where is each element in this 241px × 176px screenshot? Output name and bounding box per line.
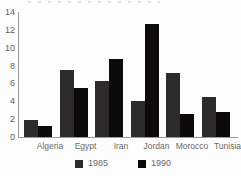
bar-1990-iran [109,59,123,137]
x-category-label: Egypt [75,141,97,151]
y-axis-line [18,12,19,138]
cropped-title-remnant [28,1,160,3]
y-tick-label: 14 [1,8,15,17]
bar-1990-egypt [74,88,88,137]
x-category-label: Jordan [144,141,170,151]
legend-item-1990: 1990 [138,159,171,168]
bar-1985-tunisia [202,97,216,137]
chart-screenshot: 02468101214AlgeriaEgyptIranJordanMorocco… [0,0,241,176]
bar-1985-iran [95,81,109,137]
x-category-label: Tunisia [214,141,241,151]
bar-1985-egypt [60,70,74,137]
y-tick-label: 0 [1,133,15,142]
y-tick-label: 4 [1,97,15,106]
x-axis-line [18,137,238,138]
bar-1990-algeria [38,126,52,137]
x-category-label: Algeria [37,141,63,151]
y-tick-label: 8 [1,62,15,71]
bar-1985-jordan [131,101,145,137]
y-tick-label: 2 [1,115,15,124]
legend-swatch-1985 [75,160,83,168]
y-tick-label: 10 [1,44,15,53]
legend-swatch-1990 [138,160,146,168]
legend-item-1985: 1985 [75,159,108,168]
bar-1985-algeria [24,120,38,137]
y-tick-label: 12 [1,26,15,35]
x-category-label: Morocco [176,141,209,151]
bar-1990-jordan [145,24,159,137]
legend-label: 1990 [151,159,171,168]
bar-1990-morocco [180,114,194,137]
legend-label: 1985 [88,159,108,168]
legend: 19851990 [75,159,201,168]
y-tick-label: 6 [1,79,15,88]
bar-1990-tunisia [216,112,230,137]
bar-1985-morocco [166,73,180,137]
x-category-label: Iran [114,141,129,151]
